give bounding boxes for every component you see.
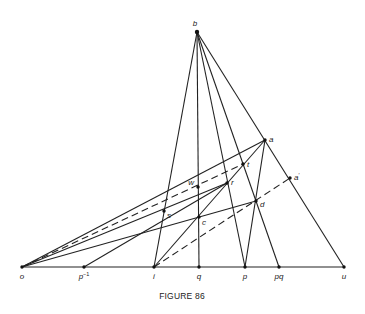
point-s (162, 209, 165, 212)
dashed-lines (22, 164, 290, 267)
label-d: d (260, 200, 265, 209)
label-q: q (197, 272, 202, 281)
label-a: a (269, 135, 274, 144)
line-b-i (154, 32, 197, 267)
label-u: u (342, 272, 347, 281)
point-q (197, 265, 200, 268)
point-t (241, 162, 244, 165)
point-pinv (82, 265, 85, 268)
point-r (225, 181, 228, 184)
label-s: s (167, 211, 171, 220)
line-b-q (197, 32, 199, 267)
label-i: i (153, 272, 155, 281)
point-labels: bop−1iqppquatrwscda′ (20, 19, 347, 281)
line-o-a (22, 140, 265, 267)
dashed-line-i-aprime (154, 178, 290, 267)
solid-lines (22, 32, 344, 267)
point-u (342, 265, 345, 268)
point-pq (277, 265, 280, 268)
label-pq: pq (274, 272, 284, 281)
point-d (254, 199, 257, 202)
label-r: r (231, 178, 234, 187)
label-c: c (202, 218, 206, 227)
point-w (196, 185, 199, 188)
dashed-line-o-t (22, 164, 243, 267)
line-o-r (22, 183, 227, 267)
point-i (152, 265, 155, 268)
label-t: t (247, 160, 250, 169)
point-aprime (288, 176, 291, 179)
points (20, 30, 345, 269)
line-b-u (197, 32, 344, 267)
label-aprime: a′ (294, 172, 299, 182)
point-p (243, 265, 246, 268)
point-a (263, 138, 266, 141)
figure-caption: FIGURE 86 (159, 291, 205, 301)
label-p: p (242, 272, 248, 281)
point-c (197, 215, 200, 218)
point-o (20, 265, 23, 268)
line-o-d (22, 201, 256, 267)
point-b (195, 30, 199, 34)
figure-86-diagram: bop−1iqppquatrwscda′ FIGURE 86 (0, 0, 365, 314)
label-pinv: p−1 (78, 271, 90, 281)
label-b: b (193, 19, 198, 28)
label-o: o (20, 272, 25, 281)
label-w: w (188, 178, 195, 187)
